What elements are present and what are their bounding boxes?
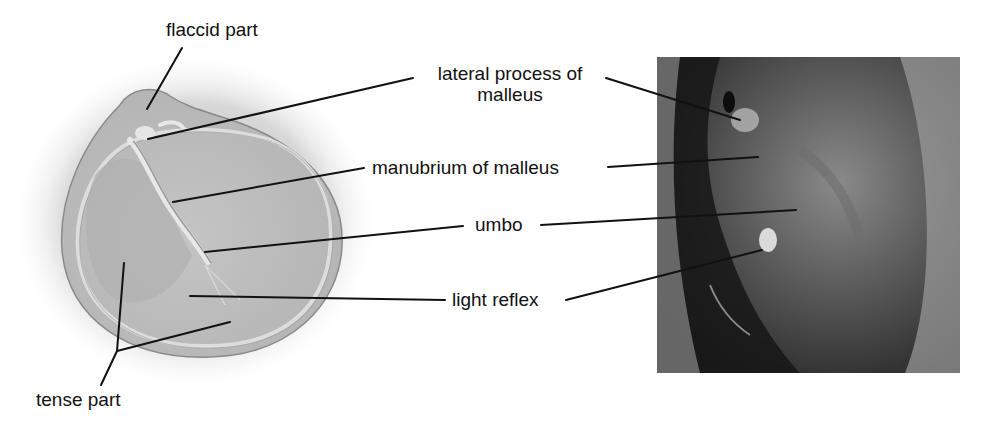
label-umbo: umbo [475,214,523,235]
label-light-reflex: light reflex [452,289,539,310]
label-manubrium: manubrium of malleus [372,157,559,178]
label-lateral-process-line1: lateral process of [420,63,600,84]
label-lateral-process-line2: malleus [420,84,600,105]
label-flaccid-part: flaccid part [166,19,258,40]
label-tense-part: tense part [36,389,121,410]
label-lateral-process: lateral process of malleus [420,63,600,105]
photo-light-reflex [759,228,777,252]
